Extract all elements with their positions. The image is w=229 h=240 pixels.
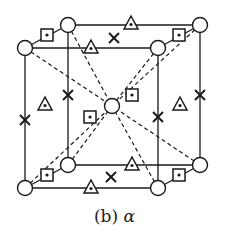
atom-circle-icon [18,41,33,56]
atom-circle-icon [105,99,120,114]
caption-label: (b) [94,206,118,226]
crystal-lattice-diagram: (b) α [0,0,229,240]
caption-phase: α [124,206,135,226]
triangle-dot-icon [125,157,139,170]
triangle-dot-icon [84,40,98,53]
unit-cell-svg [0,0,229,240]
diag-back-top-right [112,25,200,106]
square-dot-icon [41,29,53,41]
square-dot-icon [173,169,185,181]
triangle-dot-icon [173,97,187,110]
cross-icon [106,172,116,182]
atom-circle-icon [151,41,166,56]
square-dot-icon [173,29,185,41]
atom-circle-icon [151,181,166,196]
atom-circle-icon [18,181,33,196]
atom-circle-icon [61,158,76,173]
triangle-dot-icon [124,16,138,29]
cross-icon [109,33,119,43]
atom-circle-icon [193,18,208,33]
square-dot-icon [84,111,96,123]
triangle-dot-icon [84,180,98,193]
diag-back-top-left [68,25,112,106]
atom-circle-icon [61,18,76,33]
square-dot-icon [126,89,138,101]
diag-front-bottom-right [112,106,158,188]
square-dot-icon [41,169,53,181]
figure-caption: (b) α [0,206,229,226]
triangle-dot-icon [38,97,52,110]
atom-circle-icon [193,158,208,173]
